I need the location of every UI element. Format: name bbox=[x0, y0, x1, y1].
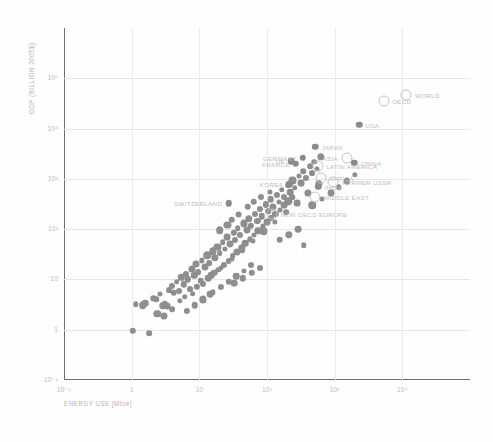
scatter-point bbox=[235, 211, 242, 218]
gridline-vertical bbox=[402, 28, 403, 380]
y-tick-label: 10³ bbox=[36, 175, 58, 182]
scatter-point bbox=[226, 241, 233, 248]
scatter-point bbox=[217, 250, 223, 256]
scatter-point bbox=[240, 275, 246, 281]
x-tick-label: 10⁴ bbox=[390, 386, 414, 393]
scatter-point bbox=[190, 291, 196, 297]
scatter-point bbox=[301, 168, 307, 174]
x-tick-label: 10³ bbox=[323, 386, 347, 393]
aggregate-marker-usa bbox=[356, 121, 363, 128]
scatter-point bbox=[258, 194, 264, 200]
scatter-point bbox=[251, 198, 258, 205]
scatter-point bbox=[130, 328, 136, 334]
scatter-point bbox=[231, 280, 238, 287]
y-tick-label: 10⁵ bbox=[36, 74, 58, 81]
annotation-label: INDIA bbox=[324, 183, 342, 190]
scatter-point bbox=[252, 211, 258, 217]
aggregate-marker-africa bbox=[315, 172, 326, 183]
annotation-label: LATIN AMERICA bbox=[326, 163, 377, 170]
aggregate-marker-india bbox=[315, 183, 322, 190]
scatter-point bbox=[301, 242, 307, 248]
scatter-point bbox=[142, 300, 149, 307]
scatter-point bbox=[235, 225, 241, 231]
scatter-point bbox=[153, 297, 159, 303]
scatter-point bbox=[303, 175, 309, 181]
scatter-point bbox=[218, 284, 224, 290]
annotation-label: MIDDLE EAST bbox=[324, 194, 369, 201]
annotation-label: KOREA bbox=[260, 181, 283, 188]
scatter-point bbox=[292, 185, 298, 191]
scatter-point bbox=[294, 199, 301, 206]
scatter-point bbox=[133, 302, 138, 307]
scatter-point bbox=[285, 231, 292, 238]
aggregate-marker-switzerland bbox=[225, 200, 232, 207]
plot-area: 10⁵10⁴10³10²10110⁻¹10⁻¹11010²10³10⁴ USAJ… bbox=[64, 28, 470, 380]
x-tick-label: 1 bbox=[120, 386, 144, 393]
scatter-point bbox=[199, 296, 206, 303]
annotation-label: ASIA bbox=[323, 154, 339, 161]
annotation-label: WORLD bbox=[415, 91, 440, 98]
x-tick-label: 10⁻¹ bbox=[52, 386, 76, 394]
aggregate-marker-oecd bbox=[378, 95, 389, 106]
y-tick-label: 10⁻¹ bbox=[36, 376, 58, 384]
y-axis-title: GDP (BILLION 2005$) bbox=[28, 43, 35, 114]
y-tick-label: 1 bbox=[36, 326, 58, 333]
scatter-point bbox=[184, 307, 190, 313]
annotation-label: JAPAN bbox=[322, 143, 343, 150]
scatter-point bbox=[160, 313, 167, 320]
aggregate-marker-latin-america bbox=[312, 161, 323, 172]
scatter-point bbox=[170, 306, 176, 312]
scatter-point bbox=[290, 194, 296, 200]
scatter-point bbox=[182, 294, 188, 300]
y-tick-label: 10⁴ bbox=[36, 125, 58, 132]
scatter-point bbox=[205, 275, 212, 282]
scatter-point bbox=[215, 267, 220, 272]
scatter-point bbox=[206, 260, 212, 266]
scatter-point bbox=[146, 330, 152, 336]
scatter-point bbox=[207, 291, 214, 298]
aggregate-marker-germany bbox=[300, 155, 307, 162]
annotation-label: SWITZERLAND bbox=[174, 200, 222, 207]
aggregate-marker-korea bbox=[286, 181, 293, 188]
y-axis-line bbox=[64, 28, 65, 380]
scatter-point bbox=[274, 192, 280, 198]
scatter-point bbox=[220, 239, 226, 245]
annotation-label: USA bbox=[365, 121, 379, 128]
scatter-point bbox=[248, 262, 254, 268]
y-tick-label: 10 bbox=[36, 275, 58, 282]
scatter-point bbox=[216, 226, 224, 234]
scatter-point bbox=[245, 215, 252, 222]
gridline-vertical bbox=[335, 28, 336, 380]
scatter-point bbox=[277, 236, 284, 243]
scatter-point bbox=[224, 222, 231, 229]
scatter-point bbox=[222, 247, 227, 252]
scatter-point bbox=[195, 269, 201, 275]
scatter-point bbox=[157, 292, 162, 297]
scatter-point bbox=[279, 187, 284, 192]
scatter-point bbox=[257, 206, 263, 212]
annotation-label: OECD bbox=[392, 97, 411, 104]
scatter-point bbox=[176, 288, 182, 294]
x-axis-title: ENERGY USE [Mtoe] bbox=[64, 400, 132, 407]
aggregate-marker-non-oecd-europe bbox=[267, 209, 278, 220]
annotation-label: FORMER USSR bbox=[342, 178, 392, 185]
scatter-point bbox=[267, 189, 272, 194]
scatter-point bbox=[245, 203, 252, 210]
x-tick-label: 10² bbox=[255, 386, 279, 393]
scatter-point bbox=[241, 268, 246, 273]
scatter-point bbox=[257, 265, 263, 271]
annotation-label: FRANCE bbox=[262, 160, 290, 167]
scatter-point bbox=[224, 234, 231, 241]
scatter-point bbox=[192, 302, 199, 309]
chart-canvas: 10⁵10⁴10³10²10110⁻¹10⁻¹11010²10³10⁴ USAJ… bbox=[0, 0, 493, 442]
y-tick-label: 10² bbox=[36, 225, 58, 232]
scatter-point bbox=[267, 196, 274, 203]
x-tick-label: 10 bbox=[187, 386, 211, 393]
aggregate-marker-middle-east bbox=[310, 192, 321, 203]
scatter-point bbox=[249, 270, 255, 276]
scatter-point bbox=[297, 173, 302, 178]
scatter-point bbox=[237, 232, 243, 238]
aggregate-marker-japan bbox=[312, 143, 319, 150]
scatter-point bbox=[295, 226, 302, 233]
annotation-label: NON OECD EUROPE bbox=[281, 211, 347, 218]
